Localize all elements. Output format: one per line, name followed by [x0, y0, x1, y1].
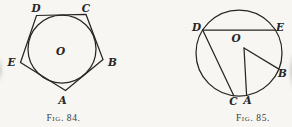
point-label-A: A — [242, 94, 251, 106]
point-label-C: C — [229, 95, 238, 107]
figure-caption-84: Fig. 84. — [46, 113, 80, 123]
textbook-figure-scan: D C E B A O Fig. 84. D E O B C A Fig. 85… — [0, 0, 292, 127]
point-label-E: E — [275, 21, 285, 33]
center-label-O: O — [231, 32, 241, 44]
circle-outline — [196, 10, 282, 96]
point-label-E: E — [6, 56, 16, 68]
point-label-B: B — [277, 67, 287, 79]
radius-OB — [244, 48, 279, 69]
figure-85: D E O B C A Fig. 85. — [191, 10, 287, 123]
point-label-D: D — [30, 2, 41, 14]
chord-DC — [203, 30, 234, 96]
figure-84: D C E B A O Fig. 84. — [6, 2, 117, 123]
center-label-O: O — [56, 45, 66, 57]
figure-caption-85: Fig. 85. — [236, 113, 270, 123]
point-label-C: C — [82, 2, 91, 14]
point-label-D: D — [191, 21, 202, 33]
point-label-A: A — [57, 94, 66, 106]
figures-canvas: D C E B A O Fig. 84. D E O B C A Fig. 85… — [0, 0, 292, 127]
point-label-B: B — [107, 56, 117, 68]
radius-OA — [244, 48, 247, 95]
